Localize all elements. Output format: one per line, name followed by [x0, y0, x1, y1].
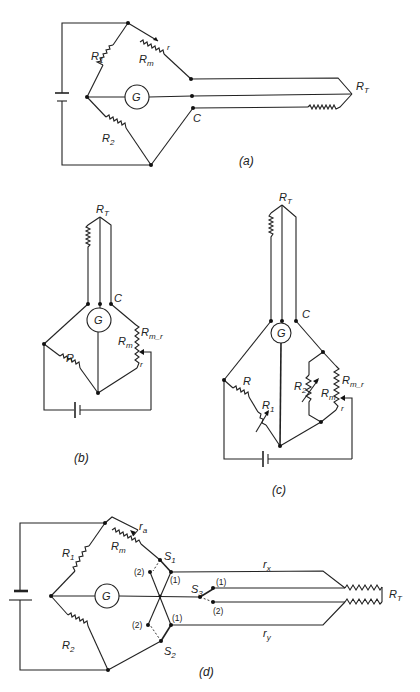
resistor-rm-icon	[334, 366, 339, 410]
label-r-small: r	[341, 404, 344, 413]
label-c: C	[114, 292, 122, 304]
label-r1: R1	[91, 50, 103, 65]
label-r2: R2	[62, 639, 75, 654]
label-g: G	[102, 590, 111, 602]
resistor-r2-icon	[106, 115, 126, 128]
label-rx: rx	[263, 558, 272, 573]
label-g: G	[94, 314, 103, 326]
label-r: R	[243, 375, 251, 387]
caption-c: (c)	[272, 483, 286, 497]
label-s1: S1	[164, 550, 176, 565]
label-rt: RT	[356, 80, 370, 95]
battery-icon	[263, 451, 268, 467]
label-s1-pos2: (2)	[134, 567, 145, 577]
label-s2-pos1: (1)	[172, 613, 183, 623]
label-r-fixed: R	[66, 352, 74, 364]
label-g: G	[132, 91, 141, 103]
label-rm: Rm	[111, 540, 126, 555]
variable-arrow-r1-icon	[256, 412, 268, 432]
label-rm: Rm	[139, 53, 154, 68]
label-rm-r: Rm_r	[342, 374, 364, 389]
label-g: G	[277, 327, 286, 339]
label-s3-pos1: (1)	[216, 577, 227, 587]
label-ra: ra	[139, 520, 148, 535]
label-s3-pos2: (2)	[213, 606, 224, 616]
resistor-r-icon	[233, 386, 249, 397]
resistor-rt-upper-icon	[345, 585, 382, 590]
label-r2: R2	[102, 132, 115, 147]
panel-d-circuit: R1 R2 Rm ra G S1 S2 S3 (2) (1) (2) (1) (…	[9, 517, 403, 679]
panel-c-circuit: RT C G R R1 R2 Rm Rm_r r (c)	[222, 191, 364, 497]
resistor-rt-icon	[269, 213, 273, 240]
label-r: r	[167, 43, 170, 52]
label-rt: RT	[279, 191, 293, 206]
resistor-r2-icon	[68, 613, 88, 626]
label-rt: RT	[96, 203, 110, 218]
caption-d: (d)	[199, 665, 214, 679]
battery-icon	[55, 93, 69, 101]
resistor-rm-icon	[135, 325, 139, 368]
resistor-r1-icon	[73, 546, 89, 571]
resistor-rt-icon	[86, 225, 90, 250]
label-rt: RT	[389, 588, 403, 603]
panel-b-circuit: RT C G Rm_r Rm r R (b)	[42, 203, 163, 465]
label-ry: ry	[263, 627, 272, 642]
label-s2: S2	[164, 645, 176, 660]
label-rm: Rm	[321, 387, 336, 402]
resistor-rt-lower-icon	[345, 599, 382, 604]
battery-icon	[9, 591, 32, 600]
label-r1: R1	[62, 547, 74, 562]
battery-icon	[75, 402, 80, 418]
resistor-rm-icon	[140, 40, 164, 54]
label-c: C	[193, 112, 201, 124]
label-rm: Rm	[118, 335, 133, 350]
label-rm-r: Rm_r	[141, 326, 163, 341]
resistor-rt-icon	[308, 94, 352, 109]
label-c: C	[302, 308, 310, 320]
label-s2-pos2: (2)	[132, 620, 143, 630]
caption-a: (a)	[239, 154, 254, 168]
panel-a-circuit: R1 Rm r G C R2 RT (a)	[55, 21, 370, 168]
caption-b: (b)	[74, 451, 89, 465]
circuit-diagram-figure: R1 Rm r G C R2 RT (a)	[0, 0, 420, 692]
label-s3: S3	[191, 583, 203, 598]
label-r2: R2	[294, 380, 307, 395]
label-r: r	[140, 360, 143, 369]
label-s1-pos1: (1)	[170, 575, 181, 585]
